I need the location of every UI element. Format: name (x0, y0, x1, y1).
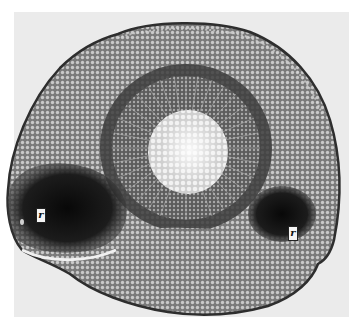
root-trace-label-right: r (288, 226, 298, 241)
root-trace-label-left: r (36, 208, 46, 223)
micrograph-figure: r r (0, 0, 359, 329)
right-root-trace (248, 186, 316, 242)
stem-cross-section (0, 0, 359, 329)
